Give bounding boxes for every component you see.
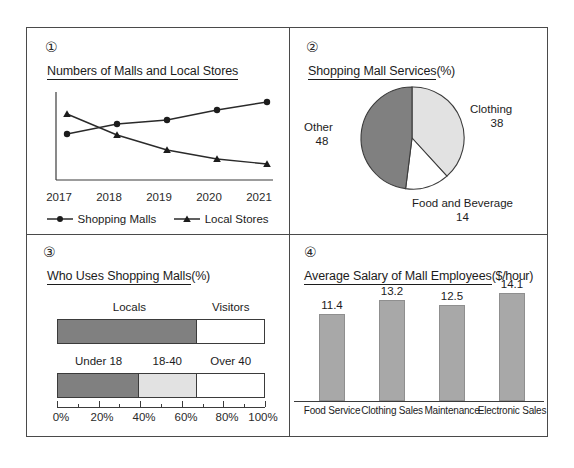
percent-axis-line <box>57 407 265 408</box>
stacked-bar-residency <box>57 319 265 344</box>
line-chart-legend: Shopping Malls Local Stores <box>27 212 289 225</box>
pie-label-clothing-name: Clothing <box>470 103 512 115</box>
axis-label-20: 20% <box>90 411 113 423</box>
tick-0 <box>57 401 58 407</box>
segment-visitors <box>196 320 264 343</box>
panel-stacked-bars: ③ Who Uses Shopping Malls(%) Locals Visi… <box>27 234 289 436</box>
segment-label-locals: Locals <box>113 301 146 313</box>
legend-label-local-stores: Local Stores <box>205 213 269 225</box>
column-bar-clothing-sales <box>379 300 405 401</box>
figure-frame: ① Numbers of Malls and Local Stores <box>26 27 548 437</box>
tick-40 <box>140 401 141 407</box>
panel-1-title-text: Numbers of Malls and Local Stores <box>47 64 238 80</box>
column-chart-baseline <box>294 401 544 402</box>
tick-30 <box>119 404 120 407</box>
segment-label-18-40: 18-40 <box>153 355 182 367</box>
panel-4-marker: ④ <box>304 245 317 259</box>
percent-axis-labels: 0% 20% 40% 60% 80% 100% <box>27 411 289 427</box>
segment-under-18 <box>58 374 138 397</box>
pie-label-clothing-value: 38 <box>470 116 524 130</box>
tick-60 <box>182 401 183 407</box>
category-label-clothing-sales: Clothing Sales <box>361 405 423 416</box>
panel-column-chart: ④ Average Salary of Mall Employees($/hou… <box>289 234 547 436</box>
panel-3-title: Who Uses Shopping Malls(%) <box>47 269 210 283</box>
pie-label-food-and-beverage: Food and Beverage 14 <box>412 196 513 225</box>
axis-label-60: 60% <box>174 411 197 423</box>
column-value-maintenance: 12.5 <box>441 290 463 302</box>
column-chart-category-labels: Food Service Clothing Sales Maintenance … <box>290 405 548 421</box>
category-label-food-service: Food Service <box>304 405 361 416</box>
panel-line-chart: ① Numbers of Malls and Local Stores <box>27 28 289 234</box>
x-tick-2020: 2020 <box>196 191 222 203</box>
pie-chart-svg <box>358 84 466 192</box>
pie-chart-graphic <box>358 84 466 192</box>
column-value-electronic-sales: 14.1 <box>501 278 523 290</box>
pie-label-other-name: Other <box>304 121 333 133</box>
tick-100 <box>265 401 266 407</box>
stacked-bar-age <box>57 373 265 398</box>
panel-3-title-unit: (%) <box>191 269 210 283</box>
panel-2-title-text: Shopping Mall Services <box>308 64 436 80</box>
tick-90 <box>244 404 245 407</box>
pie-slice-other <box>361 87 412 189</box>
panel-2-marker: ② <box>306 40 319 54</box>
axis-label-100: 100% <box>248 411 277 423</box>
column-bar-maintenance <box>439 305 465 401</box>
panel-3-title-text: Who Uses Shopping Malls <box>47 269 191 285</box>
legend-label-shopping-malls: Shopping Malls <box>78 213 157 225</box>
series-shopping-malls-markers <box>64 99 270 137</box>
legend-item-local-stores: Local Stores <box>174 212 268 225</box>
stacked-bar-2-segment-labels: Under 18 18-40 Over 40 <box>57 355 265 370</box>
axis-label-80: 80% <box>215 411 238 423</box>
stacked-bar-1-segment-labels: Locals Visitors <box>57 301 265 316</box>
tick-70 <box>203 404 204 407</box>
segment-label-over-40: Over 40 <box>210 355 251 367</box>
panel-pie-chart: ② Shopping Mall Services(%) Clothing 38 … <box>289 28 547 234</box>
legend-circle-marker-icon <box>47 214 73 224</box>
segment-label-under-18: Under 18 <box>75 355 122 367</box>
legend-triangle-marker-icon <box>174 214 200 224</box>
column-bar-electronic-sales <box>499 293 525 401</box>
column-bar-food-service <box>319 314 345 401</box>
column-chart-plot-area: 11.4 13.2 12.5 14.1 <box>300 279 540 401</box>
panel-3-marker: ③ <box>43 245 56 259</box>
segment-locals <box>58 320 196 343</box>
axis-label-40: 40% <box>132 411 155 423</box>
pie-label-other-value: 48 <box>304 134 340 148</box>
panel-1-marker: ① <box>45 40 58 54</box>
panel-2-title: Shopping Mall Services(%) <box>308 64 455 78</box>
tick-10 <box>78 404 79 407</box>
pie-label-food-value: 14 <box>412 210 513 224</box>
percent-axis <box>57 400 265 408</box>
pie-label-other: Other 48 <box>304 120 340 149</box>
panel-1-title: Numbers of Malls and Local Stores <box>47 64 238 78</box>
line-chart-plot-area <box>45 90 277 188</box>
line-chart-x-tick-labels: 2017 2018 2019 2020 2021 <box>41 191 279 207</box>
x-tick-2021: 2021 <box>246 191 272 203</box>
category-label-maintenance: Maintenance <box>424 405 479 416</box>
column-value-clothing-sales: 13.2 <box>381 285 403 297</box>
line-chart-svg <box>45 90 277 188</box>
pie-label-clothing: Clothing 38 <box>470 102 524 131</box>
segment-label-visitors: Visitors <box>212 301 250 313</box>
legend-item-shopping-malls: Shopping Malls <box>47 212 156 225</box>
column-value-food-service: 11.4 <box>321 299 343 311</box>
x-tick-2018: 2018 <box>96 191 122 203</box>
tick-80 <box>223 401 224 407</box>
x-tick-2017: 2017 <box>46 191 72 203</box>
segment-18-40 <box>138 374 196 397</box>
panel-2-title-unit: (%) <box>436 64 455 78</box>
axis-label-0: 0% <box>53 411 70 423</box>
pie-label-food-name: Food and Beverage <box>412 197 513 209</box>
x-tick-2019: 2019 <box>146 191 172 203</box>
segment-over-40 <box>196 374 264 397</box>
tick-50 <box>161 404 162 407</box>
tick-20 <box>99 401 100 407</box>
category-label-electronic-sales: Electronic Sales <box>478 405 547 416</box>
